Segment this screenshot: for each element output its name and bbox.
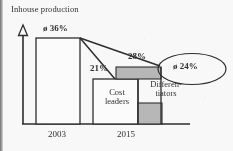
figure-title: Inhouse production (11, 5, 79, 14)
bar-segment-grey-lower (138, 103, 162, 124)
cost-leaders-name: Cost leaders (97, 88, 137, 106)
bar-2003-total (36, 38, 80, 124)
y-axis (19, 25, 28, 124)
cost-leaders-name-line2: leaders (97, 97, 137, 106)
bar-segment-grey-upper (116, 67, 161, 79)
avg-2015-value-label: ø 24% (173, 62, 198, 71)
x-axis-label-2003: 2003 (48, 130, 66, 139)
differentiators-name-line2: tiators (142, 89, 190, 98)
up-arrow-icon (19, 25, 28, 36)
differentiators-value-label: 28% (128, 52, 146, 61)
figure-canvas: Inhouse production ø 36% 21% 28% ø 24% C… (0, 0, 233, 151)
cost-leaders-value-label: 21% (90, 64, 108, 73)
x-axis-label-2015: 2015 (117, 130, 135, 139)
avg-2003-value-label: ø 36% (43, 24, 68, 33)
differentiators-name: Differen- tiators (142, 80, 190, 98)
